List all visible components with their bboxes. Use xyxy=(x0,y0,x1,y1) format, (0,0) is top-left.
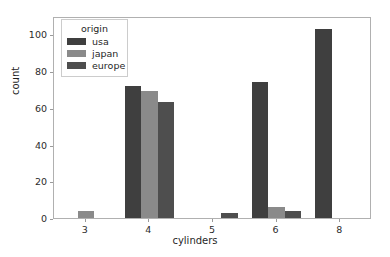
legend-item-europe: europe xyxy=(67,60,122,71)
x-tick-label: 4 xyxy=(145,224,151,235)
x-axis-label: cylinders xyxy=(0,235,390,246)
y-tick-mark xyxy=(50,182,53,183)
legend-entries: usajapaneurope xyxy=(67,36,122,71)
x-tick-label: 5 xyxy=(209,224,215,235)
legend-item-label: usa xyxy=(92,36,109,47)
legend-item-label: europe xyxy=(92,60,125,71)
x-tick-label: 3 xyxy=(82,224,88,235)
bar-japan-6 xyxy=(268,207,285,218)
bar-europe-6 xyxy=(285,211,302,218)
y-tick-mark xyxy=(50,72,53,73)
y-tick-mark xyxy=(50,109,53,110)
y-tick-label: 80 xyxy=(35,66,47,77)
y-tick-label: 20 xyxy=(35,176,47,187)
bar-europe-4 xyxy=(158,102,175,218)
legend-item-usa: usa xyxy=(67,36,122,47)
legend-swatch-icon xyxy=(67,62,86,69)
legend-item-japan: japan xyxy=(67,48,122,59)
legend-title: origin xyxy=(67,23,122,34)
x-tick-mark xyxy=(276,219,277,222)
y-tick-label: 100 xyxy=(29,29,47,40)
x-tick-mark xyxy=(212,219,213,222)
y-tick-label: 40 xyxy=(35,140,47,151)
y-tick-label: 0 xyxy=(41,213,47,224)
bar-europe-5 xyxy=(221,213,238,219)
legend-swatch-icon xyxy=(67,38,86,45)
y-tick-label: 60 xyxy=(35,103,47,114)
x-tick-mark xyxy=(339,219,340,222)
x-tick-label: 8 xyxy=(336,224,342,235)
bar-japan-4 xyxy=(141,91,158,218)
legend-item-label: japan xyxy=(92,48,118,59)
legend-swatch-icon xyxy=(67,50,86,57)
y-tick-mark xyxy=(50,219,53,220)
x-tick-mark xyxy=(85,219,86,222)
bar-japan-3 xyxy=(78,211,95,218)
legend: origin usajapaneurope xyxy=(61,19,128,77)
x-tick-mark xyxy=(148,219,149,222)
x-tick-label: 6 xyxy=(273,224,279,235)
y-tick-mark xyxy=(50,35,53,36)
bar-usa-6 xyxy=(252,82,269,218)
y-tick-mark xyxy=(50,146,53,147)
bar-usa-8 xyxy=(315,29,332,218)
bar-usa-4 xyxy=(125,86,142,218)
y-axis-label: count xyxy=(10,67,21,95)
bar-chart-figure: count 020406080100 34568 cylinders origi… xyxy=(0,0,390,257)
